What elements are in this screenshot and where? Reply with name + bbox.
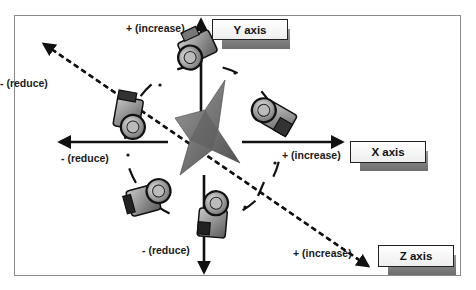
z-axis-label: Z axis [378, 245, 454, 267]
y-axis-plus-label: + (increase) [126, 22, 185, 34]
center-star-icon [175, 80, 240, 175]
x-axis-label: X axis [350, 141, 426, 163]
x-axis-plus-label: + (increase) [282, 149, 341, 161]
x-axis-minus-label: - (reduce) [61, 152, 109, 164]
camera-icon-left [111, 90, 151, 141]
y-axis-minus-label: - (reduce) [142, 244, 190, 256]
camera-icon-right [247, 94, 297, 137]
z-axis-plus-label: + (increase) [293, 247, 352, 259]
y-axis-label: Y axis [212, 19, 288, 40]
camera-icon-bottom [197, 190, 229, 238]
z-axis-minus-label: - (reduce) [0, 77, 48, 89]
